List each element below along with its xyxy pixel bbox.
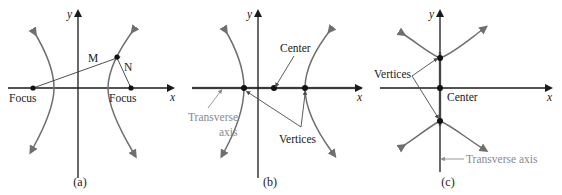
panel-b: Center Vertices Transverse axis x y (b): [186, 0, 374, 195]
center-label: Center: [280, 42, 311, 54]
vertices-label: Vertices: [279, 133, 317, 145]
transverse-axis-label-line1: Transverse: [188, 111, 238, 123]
center-leader-line: [277, 56, 294, 84]
panel-a-caption: (a): [73, 175, 86, 189]
vertices-leader-lower: [412, 76, 437, 116]
x-axis-label: x: [546, 91, 553, 103]
segment-m-label: M: [88, 52, 98, 64]
right-vertex-point: [302, 85, 308, 91]
vertices-leader-left: [249, 93, 301, 127]
y-axis-label: y: [428, 8, 435, 21]
panel-c: Vertices Center Transverse axis x y (c): [374, 0, 562, 195]
x-axis-label: x: [356, 91, 363, 103]
lower-vertex-point: [437, 118, 443, 124]
panel-c-caption: (c): [441, 175, 454, 189]
center-point: [437, 85, 443, 91]
y-axis-label: y: [246, 8, 253, 21]
panel-a: Focus Focus M N x y (a): [0, 0, 186, 195]
center-point: [271, 85, 277, 91]
vertices-leader-right: [301, 94, 305, 127]
left-focus-label: Focus: [9, 92, 37, 104]
right-focus-point: [128, 85, 133, 90]
transverse-axis-leader: [208, 92, 220, 108]
panel-b-caption: (b): [263, 175, 277, 189]
center-label: Center: [447, 91, 478, 103]
y-axis-label: y: [66, 8, 73, 21]
upper-vertex-point: [437, 55, 443, 61]
hyperbola-left-branch: [33, 30, 54, 148]
curve-point: [114, 54, 119, 59]
left-focus-point: [30, 85, 35, 90]
right-focus-label: Focus: [109, 92, 137, 104]
transverse-axis-label: Transverse axis: [466, 153, 538, 165]
vertices-label: Vertices: [374, 68, 412, 80]
transverse-axis-label-line2: axis: [219, 126, 238, 138]
x-axis-label: x: [169, 91, 176, 103]
segment-focus-to-m: [33, 58, 117, 88]
vertices-leader-upper: [412, 60, 435, 76]
hyperbola-figure: Focus Focus M N x y (a): [0, 0, 562, 195]
segment-n-label: N: [124, 61, 133, 73]
left-vertex-point: [241, 85, 247, 91]
